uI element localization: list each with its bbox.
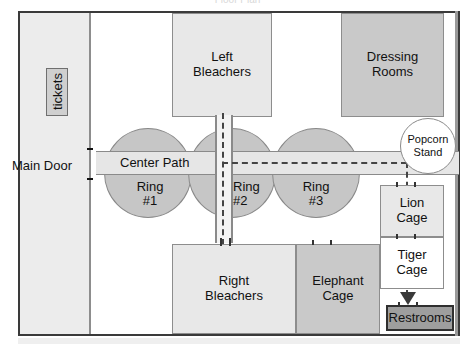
- lion-cage-label: Lion Cage: [396, 196, 427, 226]
- main-door-jamb-top: [87, 148, 93, 150]
- lobby-area: [20, 13, 90, 334]
- route-dashed-vertical: [222, 113, 224, 245]
- main-door-label: Main Door: [12, 158, 92, 173]
- tickets-label: tickets: [50, 72, 65, 112]
- bottom-shadow: [18, 338, 460, 344]
- tiger-cage-door-b: [414, 234, 416, 239]
- left-bleachers: Left Bleachers: [172, 13, 272, 117]
- restrooms-door-b: [416, 302, 418, 307]
- center-path-label: Center Path: [120, 155, 189, 170]
- right-bleachers-door-a: [220, 238, 222, 246]
- ring-3-label: Ring #3: [288, 180, 344, 209]
- tiger-cage-label: Tiger Cage: [396, 248, 427, 278]
- page-title: Floor Plan: [0, 0, 475, 5]
- lobby-interior-wall: [89, 13, 91, 334]
- lion-cage-door-b: [414, 182, 416, 187]
- right-bleachers: Right Bleachers: [172, 244, 296, 334]
- route-arrowhead-icon: [400, 292, 416, 305]
- dressing-rooms-label: Dressing Rooms: [367, 50, 418, 80]
- dressing-rooms: Dressing Rooms: [341, 13, 444, 117]
- vertical-corridor-wall-left: [215, 115, 217, 243]
- restrooms-door-a: [398, 302, 400, 307]
- circus-floor-plan: Floor Plan Main Door tickets Left Bleach…: [0, 0, 475, 355]
- elephant-cage-label: Elephant Cage: [312, 274, 363, 304]
- right-bleachers-door-b: [229, 238, 231, 246]
- ring-1-label: Ring #1: [122, 180, 178, 209]
- elephant-cage-door-a: [312, 240, 314, 245]
- left-bleachers-label: Left Bleachers: [193, 50, 251, 80]
- restrooms: Restrooms: [386, 305, 454, 331]
- restrooms-label: Restrooms: [389, 311, 452, 326]
- tickets-booth: tickets: [46, 68, 68, 116]
- route-dashed-horizontal: [222, 162, 407, 164]
- elephant-cage-door-b: [330, 240, 332, 245]
- popcorn-stand: Popcorn Stand: [400, 118, 456, 174]
- main-door-jamb-bottom: [87, 178, 93, 180]
- elephant-cage: Elephant Cage: [296, 244, 380, 334]
- tiger-cage-door-a: [396, 234, 398, 239]
- vertical-corridor-floor: [217, 115, 231, 243]
- popcorn-stand-label: Popcorn Stand: [408, 133, 449, 158]
- tiger-cage: Tiger Cage: [380, 237, 444, 289]
- right-bleachers-label: Right Bleachers: [205, 274, 263, 304]
- lion-cage-door-a: [396, 182, 398, 187]
- title-clipped-band: Floor Plan: [0, 0, 475, 9]
- ring-2-label: Ring #2: [233, 180, 277, 209]
- lion-cage: Lion Cage: [380, 185, 444, 237]
